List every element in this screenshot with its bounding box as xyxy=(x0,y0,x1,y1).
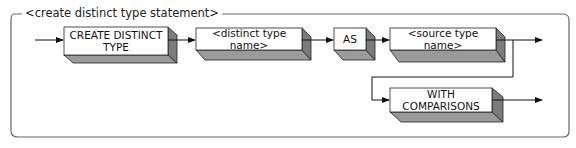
syntax-diagram xyxy=(0,0,576,148)
box-label-line1: CREATE DISTINCT xyxy=(70,29,163,41)
box-label-distinct-type-name: <distinct type name> xyxy=(196,28,302,50)
box-label-line2: TYPE xyxy=(103,41,129,53)
box-label-source-type-name: <source type name> xyxy=(390,28,496,50)
box-label-with-comparisons: WITH COMPARISONS xyxy=(390,88,492,112)
box-label-create-distinct-type: CREATE DISTINCT TYPE xyxy=(64,27,168,55)
box-label-as: AS xyxy=(334,28,366,50)
diagram-title: <create distinct type statement> xyxy=(22,6,222,20)
